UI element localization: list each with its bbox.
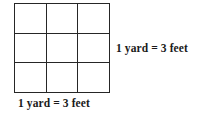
diagram-canvas: 1 yard = 3 feet 1 yard = 3 feet xyxy=(0,0,215,118)
grid-cell xyxy=(78,34,110,64)
grid-cell xyxy=(15,63,47,93)
horizontal-side-label: 1 yard = 3 feet xyxy=(18,97,90,110)
vertical-side-label: 1 yard = 3 feet xyxy=(116,42,188,55)
grid-cell xyxy=(47,34,79,64)
grid-cell xyxy=(47,63,79,93)
grid-cell xyxy=(15,34,47,64)
grid-cell xyxy=(15,4,47,34)
grid-cell xyxy=(78,63,110,93)
square-yard-grid xyxy=(14,3,110,93)
grid-cell xyxy=(47,4,79,34)
grid-cell xyxy=(78,4,110,34)
